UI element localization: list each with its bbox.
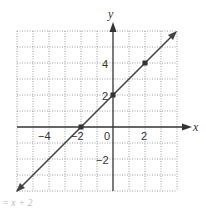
equation-caption: = x + 2	[2, 197, 32, 208]
x-tick-neg4: −4	[38, 130, 51, 142]
point-2-4	[143, 61, 148, 66]
x-tick-2: 2	[141, 130, 147, 142]
origin-label: 0	[104, 130, 110, 142]
function-line	[17, 35, 173, 191]
x-tick-neg2: −2	[71, 130, 84, 142]
x-axis-arrow-icon	[182, 124, 192, 131]
x-axis-label: x	[192, 120, 199, 134]
y-axis-arrow-icon	[110, 22, 117, 32]
y-tick-2: 2	[102, 90, 108, 102]
point-0-2	[111, 93, 116, 98]
y-tick-neg2: −2	[96, 154, 109, 166]
graph: y x −4 −2 0 2 4 2 −2	[0, 0, 206, 211]
y-tick-4: 4	[102, 58, 108, 70]
point-neg2-0	[79, 125, 84, 130]
y-axis-label: y	[107, 7, 114, 21]
